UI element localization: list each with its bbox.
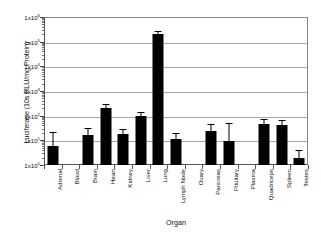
x-tick-label: Heart bbox=[109, 169, 116, 184]
x-tick-label: Kidney bbox=[126, 169, 133, 188]
y-axis-ticks: 1x1001x1011x1021x1031x1041x1051x106 bbox=[0, 17, 44, 165]
error-bar-line bbox=[228, 123, 229, 142]
x-tick-mark bbox=[220, 165, 221, 169]
bar-group bbox=[44, 17, 62, 165]
error-bar-cap bbox=[120, 129, 127, 130]
error-bar-cap bbox=[260, 119, 267, 120]
bar-group bbox=[185, 17, 203, 165]
bar-group bbox=[290, 17, 308, 165]
bar-group bbox=[79, 17, 97, 165]
x-tick-label: Adrenal bbox=[56, 169, 63, 190]
bar bbox=[258, 124, 269, 165]
x-tick-mark bbox=[97, 165, 98, 169]
x-tick-label: Testes bbox=[302, 169, 309, 187]
x-tick-mark bbox=[185, 165, 186, 169]
x-tick-mark bbox=[308, 165, 309, 169]
x-tick-label: Quadriceps bbox=[267, 169, 274, 200]
bar bbox=[276, 125, 287, 165]
bar bbox=[294, 158, 305, 165]
error-bar-cap bbox=[208, 124, 215, 125]
bar bbox=[100, 108, 111, 165]
bar-group bbox=[62, 17, 80, 165]
x-tick-mark bbox=[167, 165, 168, 169]
x-tick-mark bbox=[150, 165, 151, 169]
x-tick-mark bbox=[79, 165, 80, 169]
x-tick-label: Lung bbox=[161, 169, 168, 183]
bar bbox=[153, 34, 164, 165]
x-tick-label: Lymph Node bbox=[179, 169, 186, 203]
error-bar-line bbox=[87, 128, 88, 135]
x-tick-mark bbox=[44, 165, 45, 169]
x-axis-title: Organ bbox=[44, 218, 308, 227]
bar-group bbox=[202, 17, 220, 165]
bar bbox=[206, 131, 217, 165]
x-tick-label: Brain bbox=[91, 169, 98, 183]
y-tick-label: 1x106 bbox=[24, 13, 40, 21]
y-tick-label: 1x102 bbox=[24, 112, 40, 120]
y-tick-label: 1x105 bbox=[24, 38, 40, 46]
x-tick-mark bbox=[202, 165, 203, 169]
y-tick-label: 1x100 bbox=[24, 161, 40, 169]
bar-group bbox=[97, 17, 115, 165]
y-tick-label: 1x103 bbox=[24, 87, 40, 95]
x-tick-label: Liver bbox=[144, 169, 151, 182]
bar-group bbox=[220, 17, 238, 165]
error-bar-line bbox=[211, 124, 212, 131]
bar bbox=[170, 139, 181, 165]
x-tick-mark bbox=[238, 165, 239, 169]
error-bar-line bbox=[52, 132, 53, 146]
x-axis-category-labels: AdrenalBloodBrainHeartKidneyLiverLungLym… bbox=[44, 169, 308, 215]
x-tick-label: Pancreas bbox=[214, 169, 221, 195]
bar-group bbox=[238, 17, 256, 165]
x-tick-label: Blood bbox=[73, 169, 80, 185]
bar-group bbox=[255, 17, 273, 165]
x-tick-label: Spleen bbox=[285, 169, 292, 188]
x-tick-mark bbox=[62, 165, 63, 169]
bar-group bbox=[150, 17, 168, 165]
error-bar-cap bbox=[155, 31, 162, 32]
bar bbox=[47, 146, 58, 165]
x-tick-mark bbox=[290, 165, 291, 169]
x-tick-label: Pituitary bbox=[232, 169, 239, 191]
bar-group bbox=[167, 17, 185, 165]
error-bar-cap bbox=[296, 150, 303, 151]
error-bar-cap bbox=[49, 132, 56, 133]
x-tick-label: Ovary bbox=[197, 169, 204, 185]
x-tick-mark bbox=[273, 165, 274, 169]
error-bar-cap bbox=[172, 133, 179, 134]
bars-layer bbox=[44, 17, 308, 165]
bar bbox=[118, 134, 129, 165]
x-tick-label: Plasma bbox=[249, 169, 256, 189]
bar-group bbox=[114, 17, 132, 165]
y-tick-label: 1x104 bbox=[24, 62, 40, 70]
error-bar-cap bbox=[278, 120, 285, 121]
error-bar-cap bbox=[225, 123, 232, 124]
bar bbox=[135, 116, 146, 165]
error-bar-line bbox=[299, 150, 300, 158]
x-tick-mark bbox=[255, 165, 256, 169]
bar-group bbox=[132, 17, 150, 165]
bar-group bbox=[273, 17, 291, 165]
y-tick-label: 1x101 bbox=[24, 136, 40, 144]
error-bar-cap bbox=[137, 112, 144, 113]
error-bar-cap bbox=[84, 128, 91, 129]
bar bbox=[82, 135, 93, 165]
luciferase-organ-bar-chart: Luciferase (10s RLU/mg Protein) 1x1001x1… bbox=[0, 0, 321, 237]
error-bar-cap bbox=[102, 104, 109, 105]
bar bbox=[223, 141, 234, 165]
